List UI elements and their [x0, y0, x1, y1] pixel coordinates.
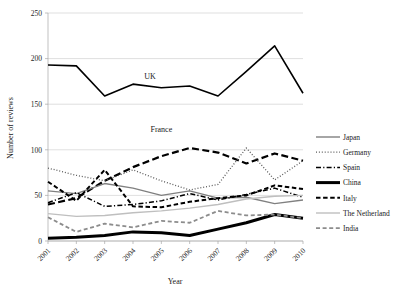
y-tick-label: 100	[31, 146, 43, 155]
legend-label-china[interactable]: China	[343, 178, 362, 187]
series-line-france	[48, 148, 303, 205]
y-tick-label: 200	[31, 54, 43, 63]
legend-label-spain[interactable]: Spain	[343, 163, 360, 172]
legend-label-germany[interactable]: Germany	[343, 148, 371, 157]
x-tick-label: 2007	[205, 246, 222, 263]
x-axis-title: Year	[168, 277, 183, 286]
x-tick-label: 2002	[64, 246, 81, 263]
legend-label-japan[interactable]: Japan	[343, 133, 360, 142]
x-tick-label: 2003	[92, 246, 109, 263]
legend: JapanGermanySpainChinaItalyThe Netherlan…	[316, 133, 390, 233]
y-axis-title: Number of reviews	[6, 97, 15, 159]
y-tick-label: 50	[35, 191, 43, 200]
line-chart: UKFrance 050100150200250 200120022003200…	[0, 0, 402, 288]
x-tick-label: 2008	[234, 246, 251, 263]
legend-label-italy[interactable]: Italy	[343, 194, 357, 203]
series-line-germany	[48, 148, 303, 190]
annotation-uk: UK	[144, 72, 156, 81]
x-axis-tick-labels: 2001200220032004200520062007200820092010	[35, 246, 307, 263]
legend-label-the-netherland[interactable]: The Netherland	[343, 209, 390, 218]
annotation-france: France	[150, 125, 172, 134]
series-annotations: UKFrance	[144, 72, 172, 134]
series-line-the-netherland	[48, 195, 303, 216]
x-tick-label: 2009	[262, 246, 279, 263]
gridlines	[48, 13, 303, 241]
series-line-china	[48, 215, 303, 239]
x-tick-label: 2006	[177, 246, 194, 263]
x-tick-label: 2001	[35, 246, 52, 263]
chart-container: UKFrance 050100150200250 200120022003200…	[0, 0, 402, 288]
y-tick-label: 150	[31, 100, 43, 109]
series-line-india	[48, 211, 303, 232]
y-tick-label: 0	[38, 237, 42, 246]
data-series	[48, 46, 303, 238]
legend-label-india[interactable]: India	[343, 224, 359, 233]
series-line-japan	[48, 184, 303, 204]
y-axis-tick-labels: 050100150200250	[31, 9, 43, 246]
y-tick-label: 250	[31, 9, 43, 18]
x-tick-label: 2010	[290, 246, 307, 263]
x-tick-label: 2004	[120, 246, 137, 263]
x-tick-label: 2005	[149, 246, 166, 263]
series-line-uk	[48, 46, 303, 96]
